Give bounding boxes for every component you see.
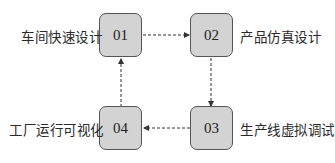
label-01: 车间快速设计 <box>21 26 102 46</box>
label-02: 产品仿真设计 <box>240 26 321 46</box>
label-04: 工厂运行可视化 <box>9 119 104 139</box>
node-04: 04 <box>99 106 142 150</box>
node-03: 03 <box>190 106 233 150</box>
node-01: 01 <box>99 13 142 57</box>
label-03: 生产线虚拟调试 <box>240 119 335 139</box>
node-02: 02 <box>190 13 233 57</box>
